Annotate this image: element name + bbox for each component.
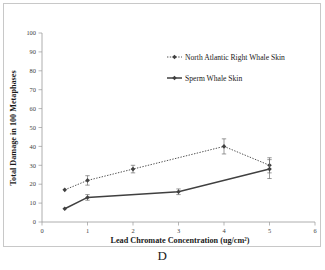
y-tick-label: 10 xyxy=(30,199,36,206)
x-tick-label: 4 xyxy=(222,227,226,234)
figure-panel: 0102030405060708090100 0123456 Total Dam… xyxy=(0,0,325,270)
line-chart: 0102030405060708090100 0123456 Total Dam… xyxy=(0,0,325,250)
x-tick-label: 1 xyxy=(86,227,89,234)
x-tick-label: 2 xyxy=(131,227,134,234)
data-point-marker xyxy=(267,167,272,172)
series-line xyxy=(65,169,270,209)
y-tick-label: 0 xyxy=(33,218,36,225)
y-axis-title: Total Damage in 100 Metaphases xyxy=(9,70,18,185)
x-tick-label: 3 xyxy=(177,227,180,234)
legend-marker xyxy=(172,76,177,81)
data-point-marker xyxy=(222,144,227,149)
series-2 xyxy=(62,160,271,211)
y-tick-label: 100 xyxy=(26,29,36,36)
legend-marker xyxy=(172,55,177,60)
y-tick-label: 80 xyxy=(30,67,36,74)
y-tick-label: 30 xyxy=(30,162,36,169)
y-tick-label: 40 xyxy=(30,143,36,150)
chart-legend: North Atlantic Right Whale SkinSperm Wha… xyxy=(167,53,285,83)
legend-item-1: North Atlantic Right Whale Skin xyxy=(167,53,285,62)
x-axis-title: Lead Chromate Concentration (ug/cm²) xyxy=(111,236,250,245)
data-point-marker xyxy=(62,188,67,193)
x-tick-label: 0 xyxy=(40,227,43,234)
legend-item-2: Sperm Whale Skin xyxy=(167,74,242,83)
x-tick-label: 6 xyxy=(313,227,316,234)
y-axis-ticks: 0102030405060708090100 xyxy=(26,29,42,225)
series-line xyxy=(65,146,270,189)
y-tick-label: 20 xyxy=(30,180,36,187)
y-tick-label: 70 xyxy=(30,86,36,93)
panel-label: D xyxy=(0,248,325,264)
y-tick-label: 50 xyxy=(30,124,36,131)
data-point-marker xyxy=(85,178,90,183)
x-axis-ticks: 0123456 xyxy=(40,222,316,234)
x-tick-label: 5 xyxy=(268,227,271,234)
series-1 xyxy=(62,139,271,192)
data-point-marker xyxy=(131,167,136,172)
y-tick-label: 90 xyxy=(30,48,36,55)
data-series-layer xyxy=(62,139,271,211)
y-tick-label: 60 xyxy=(30,105,36,112)
data-point-marker xyxy=(176,189,181,194)
legend-label: Sperm Whale Skin xyxy=(185,74,242,83)
legend-label: North Atlantic Right Whale Skin xyxy=(185,53,285,62)
